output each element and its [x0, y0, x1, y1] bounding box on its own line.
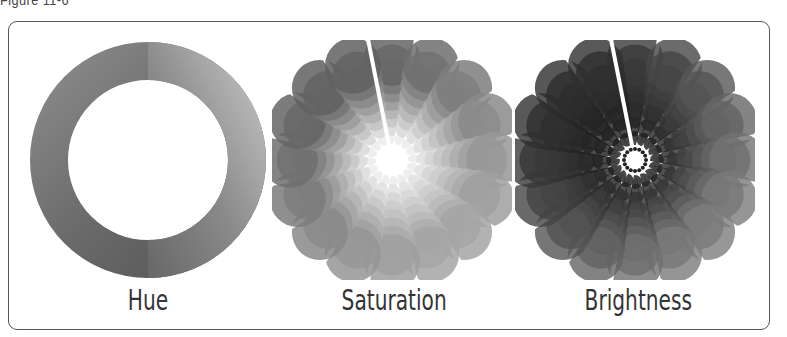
saturation-flower-graphic: [272, 40, 512, 280]
saturation-flower-panel: [272, 40, 512, 280]
brightness-flower-panel: [515, 40, 755, 280]
figure-caption: Figure 11-6: [0, 0, 69, 8]
hue-ring-graphic: [28, 40, 268, 280]
saturation-label: Saturation: [342, 284, 443, 317]
hue-label: Hue: [112, 284, 184, 317]
hue-ring-panel: [28, 40, 268, 280]
brightness-flower-graphic: [515, 40, 755, 280]
brightness-label: Brightness: [585, 284, 686, 317]
